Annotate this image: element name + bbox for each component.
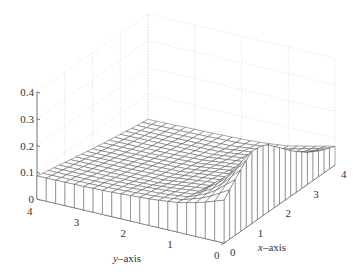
mesh-cell [121,194,130,221]
mesh-cell [313,151,319,181]
mesh-cell [149,199,158,228]
z-tick [37,119,40,120]
y-axis-label: y–axis [112,252,141,264]
z-tick [37,92,40,93]
x-tick-label: 1 [258,227,264,239]
grid-line [37,41,148,119]
mesh-cell [246,151,252,227]
mesh-cell [177,203,186,235]
x-tick-label: 2 [286,207,292,219]
mesh-cell [84,187,93,213]
mesh-cell [65,182,74,208]
mesh-cell [168,201,177,232]
grid-line [148,14,335,58]
mesh-cell [187,203,196,237]
mesh-cell [268,145,274,212]
y-tick-label: 1 [167,238,173,250]
mesh-cell [296,152,302,193]
grid-line [148,68,335,112]
mesh-cell [56,180,65,205]
mesh-cell [263,145,269,216]
y-tick-label: 2 [121,227,127,239]
mesh-cell [93,188,102,214]
z-tick-label: 0.1 [20,166,34,178]
mesh-cell [74,184,83,210]
mesh-cell [307,152,313,185]
mesh-cell [324,148,330,173]
y-tick-label: 4 [27,205,33,217]
x-tick [221,243,224,245]
mesh-cell [140,197,149,225]
mesh-cell [291,151,297,197]
mesh-cell [131,196,140,224]
z-tick-label: 0.4 [20,86,34,98]
z-tick-label: 0.3 [20,113,34,125]
y-tick-label: 3 [74,216,80,228]
grid-line [37,14,148,92]
z-tick [37,172,40,173]
mesh-cell [46,178,55,203]
mesh-cell [205,201,214,241]
mesh-cell [274,146,280,208]
mesh-cell [196,202,205,238]
surface-plot: 012340123400.10.20.30.4 x–axis y–axis [0,0,359,280]
mesh-cell [112,192,121,219]
x-axis-label: x–axis [257,241,286,253]
z-tick-label: 0.2 [20,140,34,152]
mesh-cell [318,150,324,177]
grid-line [148,41,335,85]
z-tick-label: 0 [29,193,35,205]
mesh-cell [37,176,46,201]
mesh-cell [285,149,291,200]
x-tick-label: 0 [230,246,236,258]
mesh-cell [252,148,257,223]
mesh-cell [235,170,241,235]
surface-mesh [37,119,335,243]
z-tick [37,146,40,147]
y-tick-label: 0 [214,249,220,261]
mesh-cell [329,146,335,169]
mesh-cell [280,148,286,204]
mesh-cell [159,200,168,230]
x-tick-label: 4 [341,168,347,180]
mesh-cell [241,161,247,232]
mesh-cell [230,180,236,240]
mesh-cell [102,190,111,216]
mesh-cell [302,152,308,188]
mesh-cell [215,200,224,243]
x-tick-label: 3 [313,188,319,200]
mesh-cell [257,146,263,220]
